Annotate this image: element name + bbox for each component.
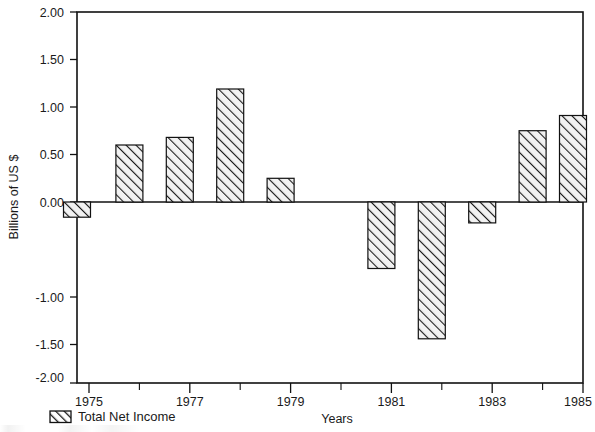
bar-1985 [560, 116, 587, 203]
legend-label-total-net-income: Total Net Income [78, 409, 176, 424]
y-tick-label--2.00: -2.00 [36, 371, 65, 385]
y-axis: 2.00 1.50 1.00 0.50 0.00 -1.00 -1.50 -2.… [36, 6, 78, 386]
y-axis-title: Billions of US $ [7, 155, 21, 240]
x-tick-label-1977: 1977 [176, 395, 204, 409]
x-axis-title: Years [321, 412, 353, 426]
y-tick-label-1.00: 1.00 [40, 101, 64, 115]
bar-series-total-net-income [64, 89, 587, 339]
bar-1984 [519, 131, 546, 202]
bar-1975 [64, 202, 91, 217]
y-tick-label--1.00: -1.00 [36, 291, 65, 305]
bar-1976 [116, 145, 143, 202]
x-tick-label-1975: 1975 [75, 395, 103, 409]
x-tick-label-1979: 1979 [277, 395, 305, 409]
bar-1982 [418, 202, 445, 339]
plot-frame [77, 12, 583, 383]
chart-legend: Total Net Income [50, 409, 176, 424]
y-tick-label-2.00: 2.00 [40, 6, 64, 20]
bar-1979 [267, 178, 294, 202]
x-tick-label-1985: 1985 [564, 395, 592, 409]
chart-canvas: 2.00 1.50 1.00 0.50 0.00 -1.00 -1.50 -2.… [0, 0, 595, 432]
legend-swatch-total-net-income [50, 411, 71, 423]
x-tick-label-1983: 1983 [478, 395, 506, 409]
bar-1981 [368, 202, 395, 269]
y-tick-label-0.00: 0.00 [40, 196, 64, 210]
bar-chart-figure: 2.00 1.50 1.00 0.50 0.00 -1.00 -1.50 -2.… [0, 0, 595, 432]
y-tick-label-1.50: 1.50 [40, 53, 64, 67]
bar-1977 [166, 137, 193, 202]
x-axis: 1975 1977 1979 1981 1983 1985 [75, 383, 592, 409]
y-tick-label-0.50: 0.50 [40, 148, 64, 162]
bar-1978 [217, 89, 244, 202]
x-tick-label-1981: 1981 [377, 395, 405, 409]
y-tick-label--1.50: -1.50 [36, 338, 65, 352]
bar-1983 [469, 202, 496, 223]
